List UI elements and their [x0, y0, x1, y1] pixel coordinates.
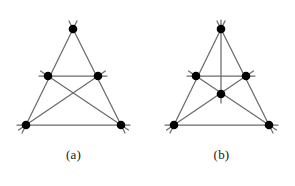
- figure-b-point-bottom-right: [265, 121, 274, 130]
- figure-a-point-top: [69, 25, 78, 34]
- figure-b-point-top: [217, 25, 226, 34]
- figure-b-point-bottom-left: [170, 121, 179, 130]
- figure-b-point-middle-left: [192, 72, 201, 81]
- figure-a-point-middle-right: [94, 72, 103, 81]
- figure-b-line-diagonal-right: [167, 71, 254, 130]
- figure-b-point-center: [217, 90, 226, 99]
- figure-a-point-bottom-right: [117, 121, 126, 130]
- figure-b-line-diagonal-left: [189, 71, 277, 130]
- figure-a-line-diagonal-right: [19, 71, 106, 130]
- figure-a-drawing: [0, 0, 147, 150]
- figure-panel-a: (a): [0, 0, 147, 186]
- figure-a-line-diagonal-left: [41, 71, 129, 130]
- figure-b-drawing: [148, 0, 295, 150]
- figure-b-point-middle-right: [242, 72, 251, 81]
- figure-panel-b: (b): [148, 0, 295, 186]
- figure-a-point-middle-left: [44, 72, 53, 81]
- figure-b-caption: (b): [148, 148, 295, 162]
- figure-a-caption: (a): [0, 148, 147, 162]
- figure-board: (a) (b): [0, 0, 295, 186]
- figure-a-point-bottom-left: [22, 121, 31, 130]
